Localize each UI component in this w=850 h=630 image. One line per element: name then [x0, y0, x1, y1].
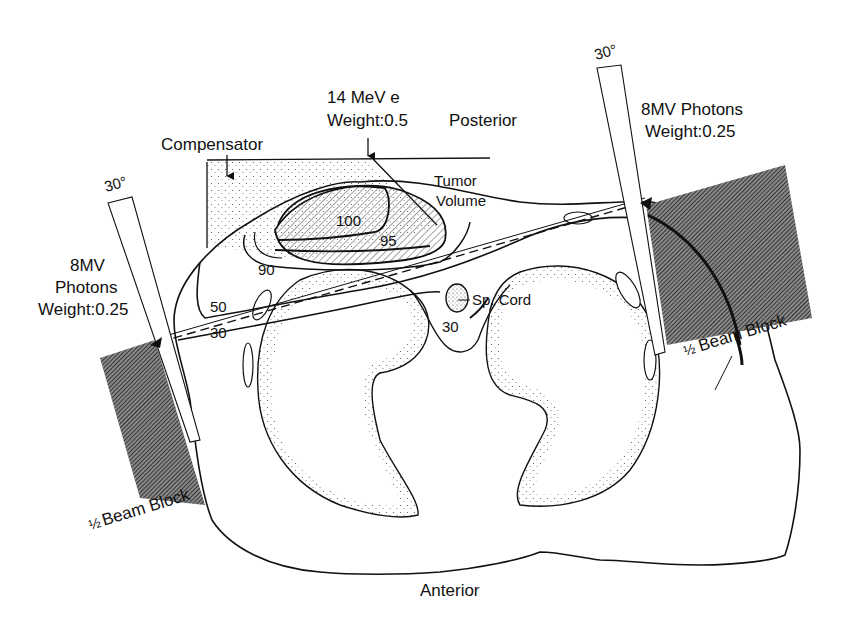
rib-left-2: [243, 343, 253, 387]
isodose-30-cord-label: 30: [442, 318, 459, 335]
isodose-95-label: 95: [380, 232, 397, 249]
isodose-90-label: 90: [258, 261, 275, 278]
isodose-100-label: 100: [336, 212, 361, 229]
anterior-label: Anterior: [420, 581, 480, 600]
right-photon-label-1: 8MV Photons: [641, 100, 743, 119]
isodose-30-left-label: 30: [210, 324, 227, 341]
spinal-cord: [446, 284, 468, 312]
left-photon-label-1: 8MV: [70, 256, 106, 275]
electron-beam-label-2: Weight:0.5: [327, 111, 408, 130]
posterior-label: Posterior: [449, 111, 517, 130]
spinal-cord-label: Sp. Cord: [472, 291, 531, 308]
right-block-leader: [715, 356, 732, 390]
right-photon-label-2: Weight:0.25: [645, 122, 735, 141]
tumor-label-1: Tumor: [434, 172, 477, 189]
left-photon-label-3: Weight:0.25: [38, 300, 128, 319]
isodose-diagram: 14 MeV e Weight:0.5 Posterior Compensato…: [0, 0, 850, 630]
left-wedge-angle: 30°: [102, 173, 128, 195]
right-beam-block: [646, 165, 812, 345]
right-wedge-angle: 30°: [592, 41, 618, 63]
isodose-50-label: 50: [210, 298, 227, 315]
tumor-label-2: Volume: [436, 192, 486, 209]
compensator-label: Compensator: [161, 135, 263, 154]
electron-beam-label-1: 14 MeV e: [327, 88, 400, 107]
right-block-fraction: ½: [681, 340, 697, 359]
left-photon-beam: [100, 197, 205, 505]
left-photon-label-2: Photons: [55, 278, 117, 297]
